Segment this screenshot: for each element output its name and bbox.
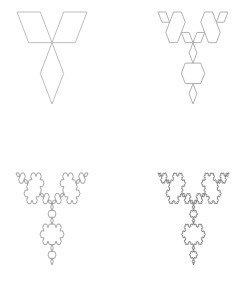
- koch-snowflake-iteration-1: [17, 12, 87, 104]
- koch-snowflake-iteration-4: [158, 173, 229, 265]
- panel-top-left: [17, 12, 87, 104]
- panel-bottom-left: [16, 173, 88, 265]
- panel-top-right: [158, 12, 228, 104]
- panel-bottom-right: [158, 173, 229, 265]
- koch-snowflake-iteration-3: [16, 173, 88, 265]
- koch-snowflake-figure: [0, 0, 247, 282]
- koch-snowflake-iteration-2: [158, 12, 228, 104]
